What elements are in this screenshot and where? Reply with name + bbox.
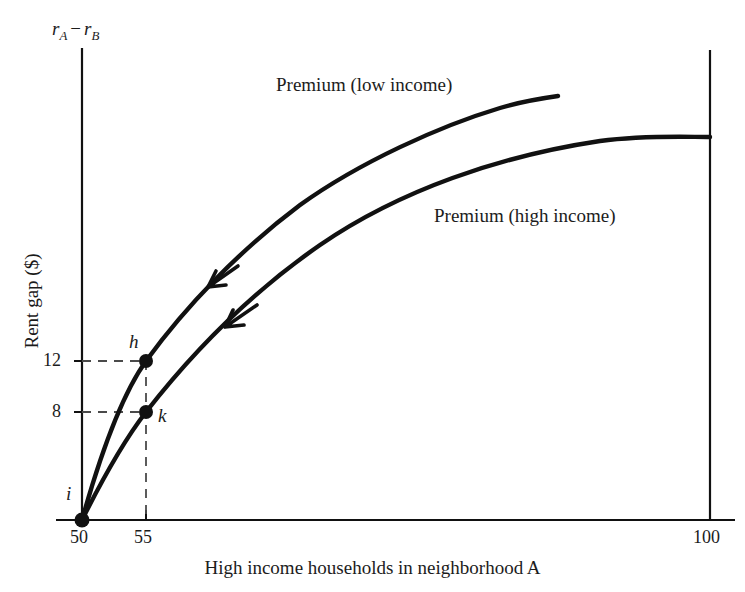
y-tick-label-8: 8 xyxy=(52,401,61,422)
y-axis-title: Rent gap ($) xyxy=(21,254,42,349)
data-point-k xyxy=(139,405,153,419)
y-axis-symbol-sub-b: B xyxy=(91,28,99,43)
data-point-i xyxy=(75,513,90,528)
chart-figure: rA−rB Rent gap ($) 12 xyxy=(0,0,745,592)
curve-premium-high-income xyxy=(82,137,710,520)
x-axis-title: High income households in neighborhood A xyxy=(0,557,745,579)
point-label-i: i xyxy=(66,483,71,505)
y-axis-title-wrapper: Rent gap ($) xyxy=(21,201,43,401)
y-tick-label-12: 12 xyxy=(43,350,61,371)
x-tick-label-50: 50 xyxy=(70,527,88,548)
curve-premium-low-income xyxy=(82,96,558,520)
x-tick-label-55: 55 xyxy=(134,527,152,548)
y-axis-symbol-operator: − xyxy=(67,18,84,39)
curve-label-low-income: Premium (low income) xyxy=(276,74,452,96)
curve-label-high-income: Premium (high income) xyxy=(434,205,616,227)
point-label-h: h xyxy=(129,331,139,353)
data-point-h xyxy=(139,354,153,368)
point-label-k: k xyxy=(158,405,166,427)
y-axis-symbol-label: rA−rB xyxy=(52,18,99,44)
x-tick-label-100: 100 xyxy=(693,527,720,548)
